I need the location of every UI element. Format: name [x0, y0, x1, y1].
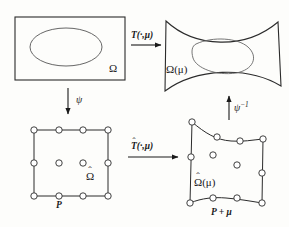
deformed-domain-label: Ω(μ)	[166, 64, 187, 75]
arrow-right-map-label-exponent: −1	[240, 101, 248, 109]
arrow-bottom-map-label: ˆT (·,μ)	[131, 142, 153, 152]
control-point	[80, 127, 86, 133]
deformed-domain-label-arg: (μ)	[174, 63, 187, 75]
control-point	[31, 160, 37, 166]
control-point	[105, 160, 111, 166]
control-point	[105, 193, 111, 199]
control-point	[31, 193, 37, 199]
control-point	[188, 154, 194, 160]
panel-reference-grid	[31, 127, 111, 199]
control-point	[31, 127, 37, 133]
control-point	[189, 119, 195, 125]
control-point	[105, 127, 111, 133]
arrow-top-map-label: T(·,μ)	[131, 31, 153, 41]
control-point	[56, 193, 62, 199]
deformed-grid-points-label: P + μ	[211, 208, 232, 218]
arrow-bottom-map-label-arg: (·,μ)	[137, 141, 153, 151]
control-point	[80, 193, 86, 199]
reference-grid-label: ˆΩ	[86, 171, 94, 182]
control-point	[234, 162, 240, 168]
reference-grid-hat-group: ˆΩ	[86, 171, 94, 182]
deformed-grid-hat-group: ˆΩ	[194, 177, 202, 188]
control-point	[259, 200, 265, 206]
control-point	[259, 170, 265, 176]
deformed-domain-label-base: Ω	[166, 63, 174, 75]
control-point	[56, 160, 62, 166]
reference-domain-ellipse	[30, 28, 102, 66]
panel-deformed-domain	[165, 21, 281, 91]
control-point	[56, 127, 62, 133]
hat-accent-icon: ˆ	[86, 166, 94, 176]
deformed-domain-blob	[192, 39, 254, 74]
arrow-right-map-label: ψ−1	[234, 102, 249, 113]
deformed-grid-label-arg: (μ)	[202, 176, 215, 188]
deformed-grid-top-edge	[192, 122, 263, 141]
control-point	[260, 136, 266, 142]
reference-domain-label: Ω	[109, 63, 117, 74]
control-point	[187, 200, 193, 206]
control-point	[234, 195, 240, 201]
control-point	[214, 134, 220, 140]
deformed-domain-outline	[165, 21, 281, 91]
panel-deformed-grid	[187, 119, 266, 206]
hat-accent-icon: ˆ	[194, 172, 202, 182]
deformed-grid-left-edge	[190, 122, 192, 203]
control-point	[210, 152, 216, 158]
hat-accent-icon: ˆ	[131, 137, 137, 146]
arrow-left-map-label: ψ	[76, 95, 82, 105]
deformed-grid-bottom-edge	[190, 198, 262, 203]
reference-grid-points-label: P	[56, 201, 62, 211]
deformed-grid-label: ˆΩ (μ)	[194, 177, 215, 188]
arrow-top-map-label-arg: (·,μ)	[137, 30, 153, 40]
arrow-bottom-map-hat-group: ˆT	[131, 142, 137, 152]
control-point	[210, 195, 216, 201]
diagram-canvas: Ω Ω(μ) T(·,μ) ψ ψ−1 ˆT (·,μ) ˆΩ P ˆΩ (μ)…	[0, 0, 289, 227]
control-point	[237, 138, 243, 144]
